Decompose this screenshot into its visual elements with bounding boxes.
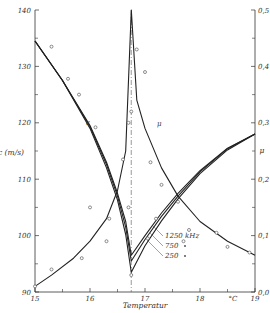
c-data-point <box>127 206 130 209</box>
legend-entry: 750 <box>165 242 179 250</box>
legend-marker <box>184 255 186 257</box>
y-right-tick-label: 0,4 <box>258 63 269 71</box>
y-left-tick-label: 140 <box>18 7 32 15</box>
c-data-point <box>94 126 97 129</box>
y-right-tick-label: 0,0 <box>258 289 270 297</box>
line-chart: 901001101201301400,00,10,20,30,40,515161… <box>0 0 270 313</box>
c-data-point <box>67 77 70 80</box>
mu-data-point <box>50 268 53 271</box>
mu-data-point <box>149 161 152 164</box>
c-data-point <box>146 237 149 240</box>
mu-data-point <box>127 121 130 124</box>
mu-data-point <box>177 200 180 203</box>
c-data-point <box>122 158 125 161</box>
mu-data-point <box>248 251 251 254</box>
series-line <box>35 41 255 261</box>
curves <box>35 10 255 286</box>
mu-data-point <box>215 231 218 234</box>
mu-data-point <box>80 257 83 260</box>
mu-data-point <box>135 48 138 51</box>
c-data-point <box>130 274 133 277</box>
c-data-point <box>78 93 81 96</box>
mu-curve-label: μ <box>157 120 162 128</box>
x-tick-label: 19 <box>251 295 260 303</box>
x-tick-label: 16 <box>86 295 95 303</box>
chart-container: 901001101201301400,00,10,20,30,40,515161… <box>0 0 270 313</box>
legend-marker <box>184 245 186 247</box>
x-axis-title: Temperatur <box>123 301 168 310</box>
y-right-tick-label: 0,2 <box>258 176 270 184</box>
c-curve-label: c <box>86 119 90 127</box>
x-tick-label: 18 <box>196 295 205 303</box>
x-tick-label: °C <box>229 295 239 303</box>
mu-data-point <box>105 240 108 243</box>
c-data-point <box>50 45 53 48</box>
mu-data-point <box>144 71 147 74</box>
y-left-tick-label: 110 <box>18 176 32 184</box>
x-tick-label: 15 <box>31 295 40 303</box>
mu-data-point <box>226 245 229 248</box>
axes <box>35 10 255 292</box>
mu-data-point <box>130 110 133 113</box>
legend-entry: 250 <box>164 252 179 260</box>
y-left-axis-title: c (m/s) <box>0 148 24 157</box>
y-left-tick-label: 120 <box>18 119 32 127</box>
y-right-tick-label: 0,5 <box>258 7 270 15</box>
mu-data-point <box>182 240 185 243</box>
mu-data-point <box>89 206 92 209</box>
y-left-tick-label: 100 <box>18 232 32 240</box>
y-left-tick-label: 130 <box>18 63 32 71</box>
mu-data-point <box>34 285 37 288</box>
legend-entry: 1250 kHz <box>165 232 199 240</box>
y-right-tick-label: 0,3 <box>258 119 270 127</box>
mu-data-point <box>108 217 111 220</box>
y-right-tick-label: 0,1 <box>258 232 269 240</box>
c-data-point <box>155 217 158 220</box>
mu-data-point <box>188 228 191 231</box>
mu-data-point <box>160 183 163 186</box>
y-right-axis-title: μ <box>260 146 265 155</box>
